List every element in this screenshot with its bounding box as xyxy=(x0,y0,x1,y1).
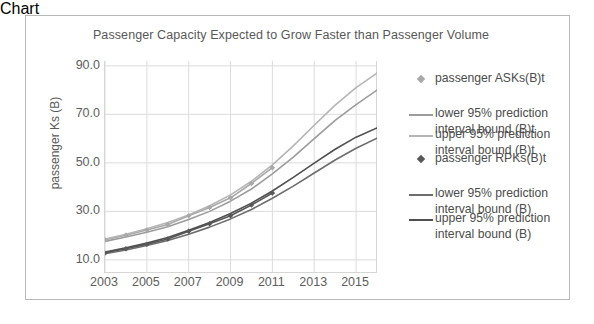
chart-title: Passenger Capacity Expected to Grow Fast… xyxy=(66,28,516,42)
legend-label: upper 95% prediction xyxy=(435,127,561,142)
y-tick-label: 50.0 xyxy=(54,155,100,169)
legend-item[interactable]: upper 95% prediction xyxy=(409,128,561,143)
y-tick-label: 10.0 xyxy=(54,252,100,266)
legend-line-swatch-icon xyxy=(409,187,435,202)
legend-label: lower 95% prediction xyxy=(435,186,561,201)
x-axis-tick-labels: 2003200520072009201120132015 xyxy=(104,275,377,297)
legend-label-continued: interval bound (B) xyxy=(435,227,561,242)
chart-legend: passenger ASKs(B)tlower 95% predictionin… xyxy=(409,66,561,281)
y-tick-label: 70.0 xyxy=(54,106,100,120)
legend-item[interactable]: lower 95% prediction xyxy=(409,187,561,202)
x-tick-label: 2009 xyxy=(208,275,252,289)
line-swatch-icon xyxy=(409,194,433,196)
legend-diamond-marker-icon xyxy=(409,72,435,87)
legend-label: passenger RPKs(B)t xyxy=(435,151,561,166)
plot-area xyxy=(104,61,377,273)
legend-label: lower 95% prediction xyxy=(435,106,561,121)
x-tick-label: 2007 xyxy=(166,275,210,289)
x-tick-label: 2003 xyxy=(82,275,126,289)
legend-line-swatch-icon xyxy=(409,107,435,122)
legend-label: upper 95% prediction xyxy=(435,211,561,226)
legend-label: passenger ASKs(B)t xyxy=(435,71,561,86)
line-swatch-icon xyxy=(409,219,433,221)
legend-item[interactable]: lower 95% prediction xyxy=(409,107,561,122)
y-tick-label: 30.0 xyxy=(54,203,100,217)
y-axis-tick-labels: 10.030.050.070.090.0 xyxy=(50,61,100,273)
x-tick-label: 2013 xyxy=(291,275,335,289)
x-tick-label: 2005 xyxy=(124,275,168,289)
x-tick-label: 2011 xyxy=(249,275,293,289)
legend-line-swatch-icon xyxy=(409,212,435,227)
line-swatch-icon xyxy=(409,135,433,137)
legend-diamond-marker-icon xyxy=(409,152,435,167)
plot-svg xyxy=(105,61,377,272)
legend-item[interactable]: upper 95% prediction xyxy=(409,212,561,227)
gridlines xyxy=(105,61,377,272)
legend-item[interactable]: passenger RPKs(B)t xyxy=(409,152,561,167)
x-tick-label: 2015 xyxy=(333,275,377,289)
series-lines xyxy=(105,73,377,254)
y-tick-label: 90.0 xyxy=(54,58,100,72)
chart-frame: Passenger Capacity Expected to Grow Fast… xyxy=(25,15,570,300)
diamond-icon xyxy=(417,75,425,83)
legend-item[interactable]: passenger ASKs(B)t xyxy=(409,72,561,87)
legend-line-swatch-icon xyxy=(409,128,435,143)
line-swatch-icon xyxy=(409,114,433,116)
diamond-icon xyxy=(417,155,425,163)
